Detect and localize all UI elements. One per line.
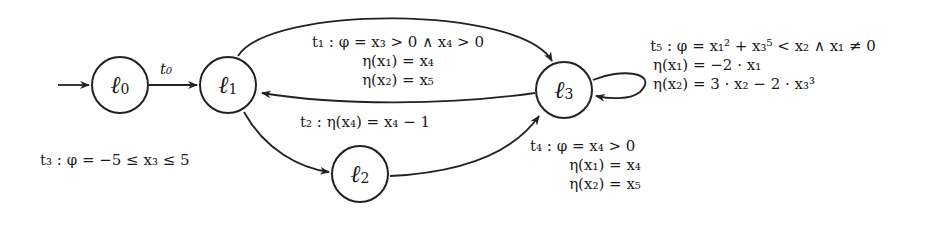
node-symbol: ℓ [219,71,229,99]
label-t2: t₂ : η(x₄) = x₄ − 1 [300,113,430,132]
node-index: 2 [361,170,370,186]
node-symbol: ℓ [111,71,121,99]
label-line: t₃ : φ = −5 ≤ x₃ ≤ 5 [40,151,190,170]
label-line: t₀ [160,60,172,78]
node-l2: ℓ2 [331,145,389,203]
label-line: t₅ : φ = x₁² + x₃⁵ < x₂ ∧ x₁ ≠ 0 [598,37,928,56]
node-l0: ℓ0 [91,56,149,114]
node-symbol: ℓ [555,76,565,104]
label-line: t₄ : φ = x₄ > 0 [530,137,680,156]
node-index: 0 [121,81,130,97]
node-l1: ℓ1 [199,56,257,114]
label-line: η(x₂) = x₅ [530,175,680,194]
label-t3: t₃ : φ = −5 ≤ x₃ ≤ 5 [40,151,190,170]
label-line: η(x₁) = −2 · x₁ [598,56,928,75]
label-line: η(x₂) = 3 · x₂ − 2 · x₃³ [598,75,928,94]
label-line: η(x₁) = x₄ [530,156,680,175]
label-t5: t₅ : φ = x₁² + x₃⁵ < x₂ ∧ x₁ ≠ 0 η(x₁) =… [598,37,928,94]
node-index: 1 [229,81,238,97]
label-t0: t₀ [160,60,172,79]
label-t4: t₄ : φ = x₄ > 0 η(x₁) = x₄ η(x₂) = x₅ [530,137,680,194]
label-line: η(x₂) = x₅ [268,71,528,90]
label-t1: t₁ : φ = x₃ > 0 ∧ x₄ > 0 η(x₁) = x₄ η(x₂… [268,33,528,90]
label-line: η(x₁) = x₄ [268,52,528,71]
node-index: 3 [565,86,574,102]
node-l3: ℓ3 [535,61,593,119]
label-line: t₂ : η(x₄) = x₄ − 1 [300,113,430,132]
label-line: t₁ : φ = x₃ > 0 ∧ x₄ > 0 [268,33,528,52]
node-symbol: ℓ [351,160,361,188]
edge-t2 [262,93,535,102]
